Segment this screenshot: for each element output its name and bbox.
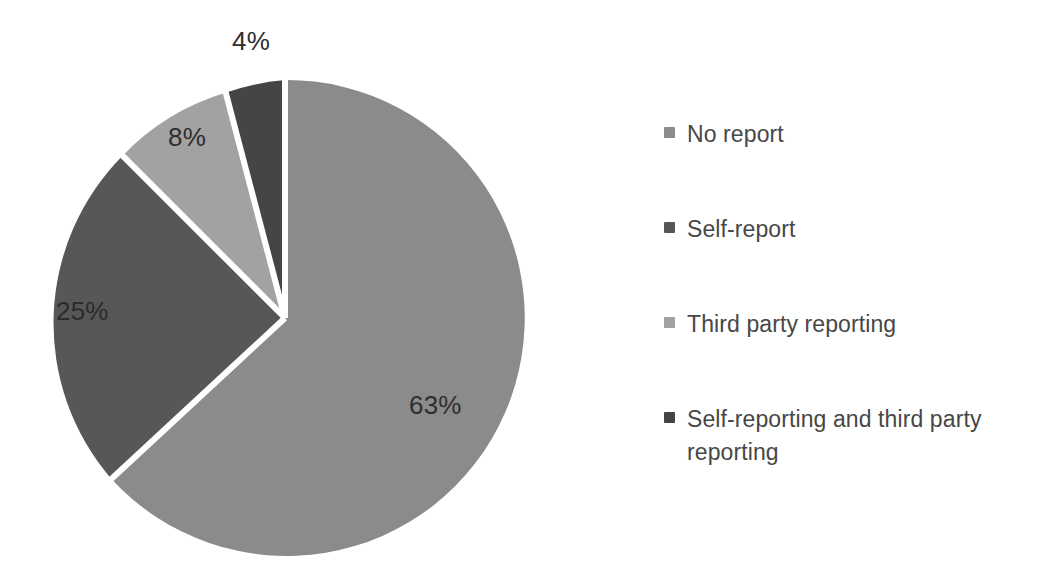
legend-item-no-report[interactable]: No report	[664, 118, 1036, 151]
pie-value-label-third-party: 8%	[168, 124, 206, 150]
pie-chart-figure: 63% 25% 8% 4% No report Self-report Thir…	[0, 0, 1048, 587]
legend-item-self-report[interactable]: Self-report	[664, 213, 1036, 246]
legend-item-third-party-reporting[interactable]: Third party reporting	[664, 308, 1036, 341]
legend-item-self-reporting-and-third-party[interactable]: Self-reporting and third party reporting	[664, 403, 1036, 469]
chart-legend: No report Self-report Third party report…	[664, 118, 1036, 469]
legend-item-label: Third party reporting	[687, 308, 896, 341]
pie-slices	[54, 80, 525, 556]
pie-svg	[0, 0, 600, 587]
legend-swatch-icon	[664, 317, 675, 328]
legend-swatch-icon	[664, 412, 675, 423]
pie-value-label-self-and-third: 4%	[232, 28, 270, 54]
pie-plot-area: 63% 25% 8% 4%	[0, 0, 600, 587]
pie-value-label-no-report: 63%	[409, 392, 462, 418]
legend-swatch-icon	[664, 127, 675, 138]
legend-item-label: No report	[687, 118, 784, 151]
legend-item-label: Self-report	[687, 213, 795, 246]
legend-item-label: Self-reporting and third party reporting	[687, 403, 1017, 469]
legend-swatch-icon	[664, 222, 675, 233]
pie-value-label-self-report: 25%	[56, 298, 109, 324]
